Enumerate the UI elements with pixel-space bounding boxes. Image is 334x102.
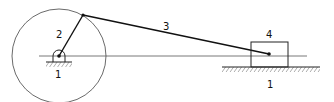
label-connecting-rod: 3 — [163, 21, 169, 32]
slider-pin — [267, 52, 271, 56]
label-ground-slider: 1 — [267, 79, 273, 90]
crank-link — [59, 15, 83, 56]
connecting-rod — [83, 15, 269, 54]
label-slider: 4 — [266, 29, 272, 40]
crank-ground — [46, 62, 72, 67]
label-ground-crank: 1 — [55, 69, 61, 80]
slider-crank-diagram: 2 1 3 4 1 — [0, 0, 334, 102]
slider-ground — [222, 67, 320, 72]
label-crank: 2 — [56, 29, 62, 40]
